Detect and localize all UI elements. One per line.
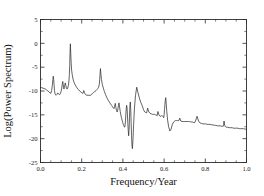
x-tick-label: 0.4: [119, 165, 128, 172]
axes-frame: [41, 20, 247, 163]
power-spectrum-chart: 0.00.20.40.60.81.0 50-5-10-15-20-25 Freq…: [0, 0, 264, 196]
x-tick-label: 0.2: [78, 165, 86, 172]
x-axis-tick-labels: 0.00.20.40.60.81.0: [36, 165, 251, 172]
y-tick-label: -15: [29, 111, 38, 118]
y-axis-ticks: [41, 20, 247, 163]
y-tick-label: -5: [32, 63, 38, 70]
spectrum-line: [41, 44, 247, 149]
x-axis-ticks: [41, 20, 247, 163]
y-tick-label: -20: [29, 135, 38, 142]
x-tick-label: 0.0: [36, 165, 45, 172]
x-tick-label: 1.0: [242, 165, 251, 172]
plot-frame: [41, 20, 247, 163]
y-tick-label: -25: [29, 159, 38, 166]
data-series-group: [41, 44, 247, 149]
x-tick-label: 0.8: [201, 165, 210, 172]
figure-container: 0.00.20.40.60.81.0 50-5-10-15-20-25 Freq…: [0, 0, 264, 196]
y-axis-tick-labels: 50-5-10-15-20-25: [29, 16, 39, 166]
x-axis-title: Frequency/Year: [110, 176, 177, 187]
y-tick-label: 5: [34, 16, 38, 23]
y-tick-label: -10: [29, 87, 38, 94]
y-axis-title: Log(Power Spectrum): [2, 44, 14, 138]
x-tick-label: 0.6: [160, 165, 169, 172]
y-tick-label: 0: [34, 40, 38, 47]
